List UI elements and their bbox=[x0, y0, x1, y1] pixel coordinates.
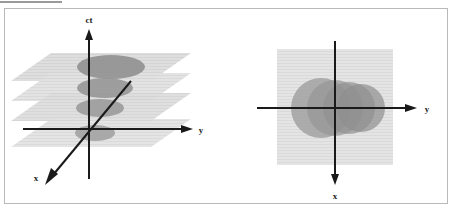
figure-frame: ct y x bbox=[4, 8, 448, 204]
axis-label-y: y bbox=[199, 125, 204, 135]
axis-label-x: x bbox=[34, 173, 39, 183]
axis-label-y: y bbox=[425, 104, 430, 114]
light-cone-cross-section bbox=[75, 125, 115, 141]
axis-label-ct: ct bbox=[86, 15, 93, 25]
spacetime-3d-canvas: ct y x bbox=[5, 9, 225, 203]
light-cone-cross-section bbox=[77, 55, 145, 79]
top-rule-decoration bbox=[0, 1, 62, 3]
panel-spatial-projection: y x bbox=[245, 9, 449, 203]
axis-label-x: x bbox=[333, 191, 338, 201]
light-cone-cross-section bbox=[76, 99, 124, 117]
panel-spacetime-3d: ct y x bbox=[5, 9, 225, 203]
figure-root: ct y x bbox=[0, 0, 454, 212]
spatial-projection-canvas: y x bbox=[245, 9, 449, 203]
